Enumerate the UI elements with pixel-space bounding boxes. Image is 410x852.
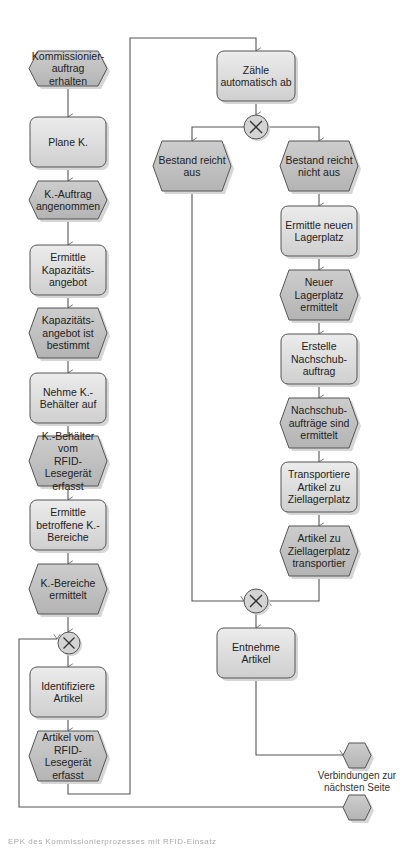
event-node-e8[interactable] — [280, 141, 361, 194]
event-node-e9[interactable] — [280, 270, 361, 323]
function-node-f3[interactable] — [30, 373, 109, 426]
offpage-connector-c1[interactable] — [343, 743, 374, 771]
function-node-f7[interactable] — [281, 206, 360, 259]
control-flow-edge — [192, 191, 244, 601]
function-node-f2[interactable] — [30, 245, 109, 298]
event-node-e7[interactable] — [153, 141, 234, 194]
xor-connector-x3[interactable] — [244, 589, 270, 615]
xor-connector-x1[interactable] — [58, 632, 82, 656]
event-node-e2[interactable] — [29, 181, 110, 222]
function-node-f6[interactable] — [217, 51, 298, 104]
event-node-e4[interactable] — [29, 436, 110, 489]
control-flow-edge — [256, 678, 343, 755]
epc-diagram-canvas — [0, 0, 410, 852]
function-node-f4[interactable] — [30, 500, 109, 553]
function-node-f8[interactable] — [281, 334, 360, 387]
event-node-e5[interactable] — [29, 564, 110, 617]
event-node-e3[interactable] — [29, 308, 110, 361]
event-node-e10[interactable] — [280, 398, 361, 451]
control-flow-edge — [268, 576, 319, 601]
offpage-connector-c2[interactable] — [343, 795, 374, 823]
function-node-f5[interactable] — [30, 667, 109, 720]
xor-connector-x2[interactable] — [244, 115, 270, 141]
function-node-f10[interactable] — [217, 628, 298, 681]
event-node-e1[interactable] — [29, 51, 110, 89]
event-node-e11[interactable] — [280, 526, 361, 579]
control-flow-edge — [192, 127, 244, 141]
function-node-f9[interactable] — [281, 462, 360, 515]
function-node-f1[interactable] — [30, 117, 109, 170]
control-flow-edge — [268, 127, 319, 141]
nodes-layer — [29, 51, 374, 823]
event-node-e6[interactable] — [29, 731, 110, 784]
figure-caption: EPK des Kommissionierprozesses mit RFID-… — [8, 837, 216, 846]
offpage-connector-label: Verbindungen zur nächsten Seite — [305, 770, 409, 794]
